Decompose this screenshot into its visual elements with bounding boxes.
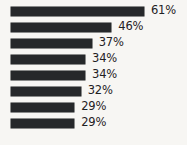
bar-value-label: 61% (151, 5, 176, 17)
bar-value-label: 46% (118, 21, 143, 33)
bar (11, 119, 74, 128)
bar (11, 87, 81, 96)
bar-chart: 61%46%37%34%34%32%29%29% (0, 0, 187, 145)
bar-row: 46% (0, 19, 187, 35)
bar-row: 34% (0, 67, 187, 83)
bar-value-label: 32% (88, 85, 113, 97)
bar-value-label: 29% (81, 101, 106, 113)
bar (11, 55, 85, 64)
bar-row: 29% (0, 115, 187, 131)
bar-row: 61% (0, 3, 187, 19)
bar-value-label: 29% (81, 117, 106, 129)
bar-row: 34% (0, 51, 187, 67)
bar-value-label: 34% (92, 69, 117, 81)
bar-row: 32% (0, 83, 187, 99)
bar-row: 29% (0, 99, 187, 115)
bar (11, 23, 111, 32)
bar (11, 103, 74, 112)
bar (11, 7, 144, 16)
bar-row: 37% (0, 35, 187, 51)
bar-value-label: 37% (99, 37, 124, 49)
bar-value-label: 34% (92, 53, 117, 65)
bar (11, 39, 92, 48)
bar (11, 71, 85, 80)
